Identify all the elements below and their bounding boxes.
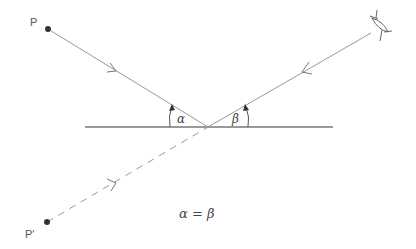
label-p-image: P′: [25, 228, 34, 240]
point-p-image-dot: [44, 219, 50, 225]
virtual-arrow-icon: [107, 179, 116, 191]
eye-icon: [370, 10, 392, 41]
alpha-arrowhead-icon: [169, 104, 175, 111]
label-alpha: α: [177, 112, 185, 126]
label-beta: β: [232, 112, 239, 126]
point-p-dot: [45, 26, 51, 32]
label-p: P: [30, 16, 37, 28]
equation-label: α = β: [179, 206, 214, 221]
